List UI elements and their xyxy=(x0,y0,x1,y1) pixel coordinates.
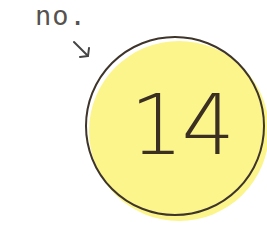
arrow-down-right-icon xyxy=(70,38,94,62)
number-label: no. xyxy=(35,2,87,29)
badge-number: 14 xyxy=(130,80,226,170)
